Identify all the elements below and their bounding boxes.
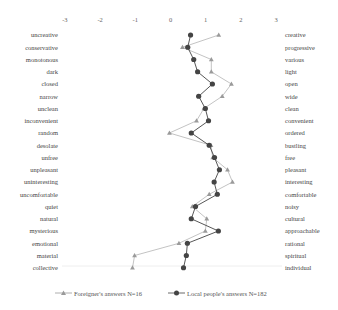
left-label: quiet — [45, 203, 58, 210]
x-tick-label: -1 — [133, 16, 138, 23]
left-label: mysterious — [29, 227, 58, 234]
right-label: wide — [285, 93, 298, 100]
data-point-local — [195, 69, 200, 74]
data-point-local — [191, 57, 196, 62]
data-point-foreigner — [203, 228, 208, 232]
data-point-local — [212, 179, 217, 184]
data-point-local — [217, 167, 222, 172]
x-tick-label: 3 — [274, 16, 277, 23]
left-label: uninteresting — [24, 178, 59, 185]
data-point-foreigner — [230, 179, 235, 183]
data-point-foreigner — [204, 216, 209, 220]
data-point-local — [184, 253, 189, 258]
left-label: narrow — [40, 93, 59, 100]
left-label: uncreative — [31, 31, 58, 38]
left-adjective-labels: uncreativeconservativemonotonousdarkclos… — [20, 31, 59, 271]
legend: Foreigner's answers N=16 Local people's … — [55, 290, 267, 297]
left-label: dark — [46, 68, 58, 75]
data-point-local — [188, 32, 193, 37]
left-label: natural — [40, 215, 58, 222]
data-point-local — [212, 155, 217, 160]
data-point-local — [206, 118, 211, 123]
data-point-foreigner — [207, 192, 212, 196]
data-point-local — [189, 130, 194, 135]
right-label: pleasant — [285, 166, 306, 173]
right-label: rational — [285, 240, 305, 247]
left-label: monotonous — [26, 56, 59, 63]
x-tick-label: 1 — [204, 16, 207, 23]
legend-label-local: Local people's answers N=182 — [187, 290, 267, 297]
x-tick-label: 0 — [169, 16, 172, 23]
left-label: uncomfortable — [20, 191, 58, 198]
data-point-local — [185, 45, 190, 50]
right-label: spiritual — [285, 252, 306, 259]
right-label: interesting — [285, 178, 313, 185]
right-label: convenient — [285, 117, 314, 124]
data-point-local — [196, 94, 201, 99]
circle-marker-icon — [174, 291, 179, 296]
left-label: unclean — [38, 105, 59, 112]
right-label: noisy — [285, 203, 300, 210]
legend-item-foreigner: Foreigner's answers N=16 — [55, 290, 143, 297]
x-axis-ticks: -3-2-10123 — [62, 16, 278, 23]
legend-item-local: Local people's answers N=182 — [168, 290, 267, 297]
right-label: clean — [285, 105, 299, 112]
data-point-local — [210, 81, 215, 86]
left-label: emotional — [32, 240, 58, 247]
x-tick-label: 2 — [239, 16, 242, 23]
data-point-foreigner — [167, 130, 172, 134]
x-tick-label: -3 — [62, 16, 67, 23]
left-label: inconvenient — [24, 117, 58, 124]
data-point-foreigner — [225, 167, 230, 171]
right-label: free — [285, 154, 295, 161]
data-point-local — [207, 143, 212, 148]
data-point-local — [216, 228, 221, 233]
data-point-foreigner — [194, 118, 199, 122]
series-markers — [130, 32, 235, 270]
data-point-foreigner — [229, 81, 234, 85]
data-point-local — [203, 106, 208, 111]
right-label: open — [285, 80, 298, 87]
right-label: bustling — [285, 142, 307, 149]
left-label: unpleasant — [30, 166, 58, 173]
right-label: creative — [285, 31, 306, 38]
data-point-foreigner — [209, 69, 214, 73]
right-label: individual — [285, 264, 312, 271]
data-point-foreigner — [216, 32, 221, 36]
left-label: material — [37, 252, 58, 259]
right-label: various — [285, 56, 305, 63]
data-point-local — [215, 192, 220, 197]
right-label: approachable — [285, 227, 320, 234]
data-point-foreigner — [177, 241, 182, 245]
data-point-local — [185, 241, 190, 246]
right-label: light — [285, 68, 297, 75]
right-label: progressive — [285, 44, 315, 51]
left-label: closed — [41, 80, 58, 87]
left-label: unfree — [41, 154, 58, 161]
semantic-differential-chart: -3-2-10123 uncreativeconservativemonoton… — [0, 0, 338, 310]
left-label: collective — [33, 264, 58, 271]
data-point-local — [181, 265, 186, 270]
right-label: ordered — [285, 129, 306, 136]
right-label: comfortable — [285, 191, 317, 198]
right-adjective-labels: creativeprogressivevariouslightopenwidec… — [285, 31, 320, 271]
data-point-local — [189, 216, 194, 221]
x-tick-label: -2 — [97, 16, 102, 23]
left-label: conservative — [25, 44, 58, 51]
left-label: desolate — [37, 142, 58, 149]
left-label: random — [38, 129, 58, 136]
legend-label-foreigner: Foreigner's answers N=16 — [74, 290, 143, 297]
right-label: cultural — [285, 215, 305, 222]
data-point-local — [193, 204, 198, 209]
